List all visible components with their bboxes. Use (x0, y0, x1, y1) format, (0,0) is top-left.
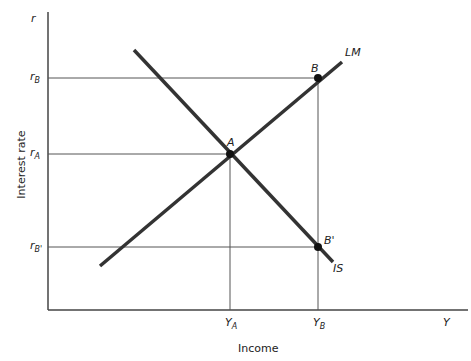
tick-label-YB: YB (313, 316, 325, 331)
tick-label-rA: rA (30, 146, 40, 161)
x-axis-end-label: Y (443, 316, 450, 329)
tick-label-rBp: rB' (30, 239, 42, 254)
lm-label: LM (345, 46, 361, 59)
point-b-label: B (311, 62, 319, 75)
tick-label-rB: rB (30, 70, 40, 85)
y-axis-end-label: r (31, 12, 36, 25)
is-label: IS (333, 262, 343, 275)
tick-label-YA: YA (225, 316, 237, 331)
y-axis-title: Interest rate (15, 130, 28, 200)
point-b-prime-label: B' (324, 234, 335, 247)
point-a-label: A (227, 136, 235, 149)
is-lm-diagram (0, 0, 471, 361)
x-axis-title: Income (238, 342, 278, 355)
is-curve (134, 50, 333, 262)
point-b (314, 74, 322, 82)
point-b-prime (314, 243, 322, 251)
point-a (226, 150, 234, 158)
